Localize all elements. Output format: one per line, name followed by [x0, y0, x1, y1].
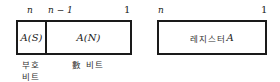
register-label: 레지스터: [190, 32, 226, 44]
bit-label-n: n: [158, 6, 164, 15]
register-field: 레지스터 A: [159, 22, 265, 53]
sign-bit-caption-line2: 비트: [22, 70, 40, 82]
sign-field: A(S): [18, 22, 47, 53]
magnitude-field: A(N): [47, 22, 130, 53]
register-a-box: A(S) A(N): [16, 20, 132, 55]
bit-label-n-minus-1: n − 1: [48, 6, 73, 15]
magnitude-bit-caption: 數 비트: [72, 58, 104, 70]
sign-bit-caption-line1: 부호: [22, 58, 40, 70]
bit-label-1: 1: [261, 5, 267, 15]
register-variable: A: [226, 32, 233, 43]
register-a-full-box: 레지스터 A: [157, 20, 267, 55]
bit-label-n: n: [27, 6, 33, 15]
bit-label-1: 1: [124, 5, 130, 15]
